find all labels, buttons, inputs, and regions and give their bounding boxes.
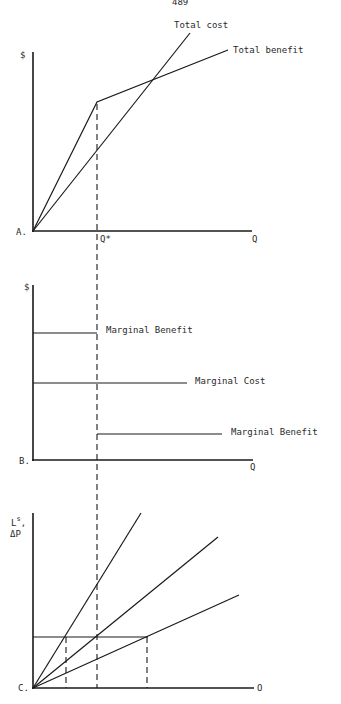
total-benefit-line [33, 50, 228, 231]
panel-c-x-label: O [257, 683, 262, 693]
panel-c: Ls, ΔP C. O [10, 513, 262, 693]
marginal-benefit-high-label: Marginal Benefit [106, 325, 193, 335]
panel-b-x-label: Q [250, 462, 255, 472]
total-cost-line [33, 33, 190, 231]
ray-medium [33, 537, 218, 688]
marginal-benefit-low-label: Marginal Benefit [231, 427, 318, 437]
panel-c-y-label-top: Ls, [11, 515, 26, 528]
ray-shallow [33, 595, 239, 688]
total-benefit-label: Total benefit [233, 45, 303, 55]
q-star-label: Q* [100, 234, 111, 244]
ray-steep [33, 513, 141, 688]
panel-b-y-label: $ [24, 282, 29, 292]
panel-a-x-label: Q [252, 234, 257, 244]
page-number: 489 [172, 0, 188, 7]
panel-c-id-label: C. [18, 683, 29, 693]
total-cost-label: Total cost [174, 20, 228, 30]
panel-b-id-label: B. [19, 456, 30, 466]
panel-a-y-label: $ [20, 50, 25, 60]
panel-a-id-label: A. [16, 227, 27, 237]
economics-diagram: 489 $ A. Q* Q Total cost Total benefit $… [0, 0, 341, 704]
marginal-cost-label: Marginal Cost [195, 376, 265, 386]
panel-a: $ A. Q* Q Total cost Total benefit [16, 20, 303, 244]
panel-c-y-label-bottom: ΔP [10, 529, 21, 539]
panel-b: $ B. Q Marginal Benefit Marginal Cost Ma… [19, 282, 318, 472]
